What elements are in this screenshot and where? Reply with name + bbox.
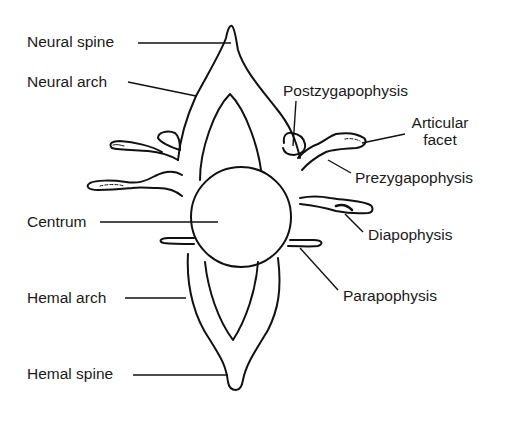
label-neural-spine: Neural spine (27, 34, 114, 50)
label-hemal-arch: Hemal arch (27, 290, 106, 306)
label-neural-arch: Neural arch (27, 74, 107, 90)
label-articular-facet-line1: Articular (405, 114, 475, 131)
label-postzygapophysis: Postzygapophysis (283, 83, 408, 99)
label-diapophysis: Diapophysis (368, 227, 452, 243)
label-prezygapophysis: Prezygapophysis (355, 170, 473, 186)
label-parapophysis: Parapophysis (343, 288, 437, 304)
label-hemal-spine: Hemal spine (27, 366, 113, 382)
label-articular-facet-line2: facet (405, 131, 475, 148)
label-centrum: Centrum (27, 214, 86, 230)
label-articular-facet: Articular facet (405, 114, 475, 148)
